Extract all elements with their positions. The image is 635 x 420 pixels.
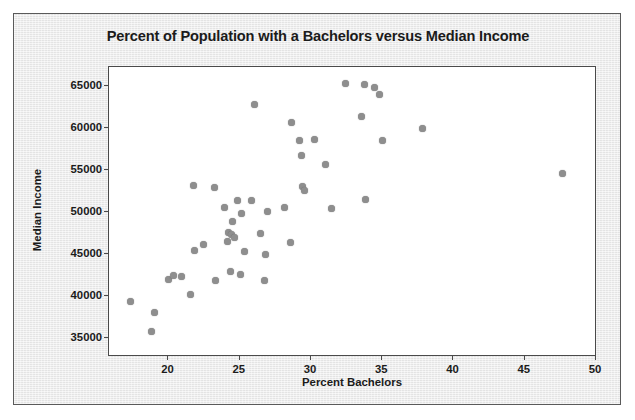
- scatter-data-point: [231, 234, 238, 241]
- scatter-data-point: [559, 170, 566, 177]
- x-axis-tick-mark: [595, 355, 596, 360]
- scatter-data-point: [298, 152, 305, 159]
- scatter-data-point: [288, 119, 295, 126]
- x-axis-tick-mark: [524, 355, 525, 360]
- scatter-data-point: [221, 204, 228, 211]
- y-axis-tick-label: 40000: [71, 289, 102, 301]
- scatter-data-point: [371, 84, 378, 91]
- x-axis-tick-mark: [167, 355, 168, 360]
- scatter-data-point: [211, 184, 218, 191]
- y-axis-tick-label: 45000: [71, 247, 102, 259]
- scatter-data-point: [178, 273, 185, 280]
- scatter-data-point: [342, 80, 349, 87]
- scatter-data-point: [262, 251, 269, 258]
- scatter-data-point: [237, 271, 244, 278]
- y-axis-tick-mark: [104, 85, 109, 86]
- y-axis-tick-label: 55000: [71, 163, 102, 175]
- scatter-data-point: [191, 247, 198, 254]
- scatter-data-point: [362, 196, 369, 203]
- scatter-data-point: [224, 238, 231, 245]
- x-axis-tick-mark: [452, 355, 453, 360]
- x-axis-tick-mark: [310, 355, 311, 360]
- y-axis-tick-mark: [104, 253, 109, 254]
- y-axis-tick-mark: [104, 337, 109, 338]
- y-axis-tick-mark: [104, 295, 109, 296]
- scatter-data-point: [361, 81, 368, 88]
- y-axis-tick-mark: [104, 211, 109, 212]
- chart-figure-frame: Percent of Population with a Bachelors v…: [13, 13, 621, 405]
- scatter-data-point: [328, 205, 335, 212]
- scatter-data-point: [151, 309, 158, 316]
- scatter-data-point: [148, 328, 155, 335]
- scatter-data-point: [212, 277, 219, 284]
- scatter-data-point: [251, 101, 258, 108]
- y-axis-tick-label: 60000: [71, 121, 102, 133]
- scatter-data-point: [358, 113, 365, 120]
- scatter-data-point: [241, 248, 248, 255]
- chart-title: Percent of Population with a Bachelors v…: [14, 28, 621, 44]
- scatter-data-point: [229, 218, 236, 225]
- scatter-data-point: [376, 91, 383, 98]
- scatter-data-point: [296, 137, 303, 144]
- y-axis-tick-label: 50000: [71, 205, 102, 217]
- y-axis-tick-label: 35000: [71, 331, 102, 343]
- y-axis-tick-label: 65000: [71, 79, 102, 91]
- scatter-data-point: [170, 272, 177, 279]
- scatter-data-point: [190, 182, 197, 189]
- x-axis-tick-label: 20: [161, 363, 174, 375]
- x-axis-tick-mark: [381, 355, 382, 360]
- scatter-data-point: [257, 230, 264, 237]
- scatter-data-point: [281, 204, 288, 211]
- x-axis-tick-label: 45: [517, 363, 530, 375]
- scatter-data-point: [200, 241, 207, 248]
- scatter-data-point: [287, 239, 294, 246]
- x-axis-tick-label: 30: [304, 363, 317, 375]
- scatter-plot-area: 3500040000450005000055000600006500020253…: [108, 66, 596, 356]
- scatter-data-point: [379, 137, 386, 144]
- x-axis-tick-label: 50: [589, 363, 602, 375]
- y-axis-tick-mark: [104, 127, 109, 128]
- x-axis-title: Percent Bachelors: [108, 376, 596, 388]
- x-axis-tick-label: 40: [446, 363, 459, 375]
- scatter-data-point: [261, 277, 268, 284]
- scatter-data-point: [264, 208, 271, 215]
- scatter-data-point: [419, 125, 426, 132]
- scatter-data-point: [301, 187, 308, 194]
- x-axis-tick-mark: [239, 355, 240, 360]
- x-axis-tick-label: 25: [232, 363, 245, 375]
- scatter-data-point: [311, 136, 318, 143]
- scatter-data-point: [234, 197, 241, 204]
- scatter-data-point: [248, 197, 255, 204]
- x-axis-tick-label: 35: [375, 363, 388, 375]
- y-axis-title: Median Income: [31, 150, 43, 270]
- y-axis-tick-mark: [104, 169, 109, 170]
- scatter-data-point: [187, 291, 194, 298]
- scatter-data-point: [322, 161, 329, 168]
- scatter-data-point: [127, 298, 134, 305]
- scatter-data-point: [227, 268, 234, 275]
- scatter-data-point: [238, 210, 245, 217]
